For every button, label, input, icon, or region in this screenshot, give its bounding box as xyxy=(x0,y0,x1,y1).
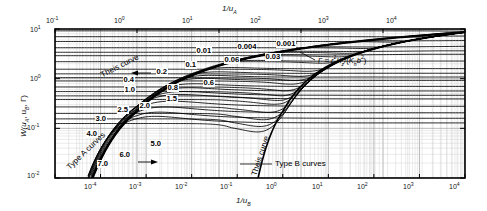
curve-label-3p0: 3.0 xyxy=(95,115,107,123)
curve-label-0p8: 0.8 xyxy=(167,84,179,92)
curve-label-1p5: 1.5 xyxy=(166,95,178,103)
curve-label-0p4: 0.4 xyxy=(123,76,135,84)
figure-root: 1/uA 10-1 100 101 102 103 104 101 100 10… xyxy=(0,0,487,211)
curve-label-7p0: 7.0 xyxy=(97,160,109,168)
gamma-definition-label: Γ = r2Kz/(Khb2) xyxy=(318,56,366,65)
curve-label-0p03: 0.03 xyxy=(265,53,281,61)
curve-label-0p004: 0.004 xyxy=(237,43,257,51)
curve-label-0p01: 0.01 xyxy=(196,47,212,55)
curve-label-2p5: 2.5 xyxy=(117,106,129,114)
curve-label-4p0: 4.0 xyxy=(86,130,98,138)
curve-label-2p0: 2.0 xyxy=(139,102,151,110)
curve-label-0p1: 0.1 xyxy=(185,61,197,69)
curve-label-1p0: 1.0 xyxy=(124,86,136,94)
curve-label-0p001: 0.001 xyxy=(276,40,296,48)
curve-label-0p6: 0.6 xyxy=(203,79,215,87)
plot-area xyxy=(0,0,487,211)
type-b-curves-label: Type B curves xyxy=(275,160,326,168)
curve-label-5p0: 5.0 xyxy=(150,140,162,148)
curve-label-6p0: 6.0 xyxy=(119,151,131,159)
curve-label-0p2: 0.2 xyxy=(156,68,168,76)
curve-label-0p06: 0.06 xyxy=(224,56,240,64)
